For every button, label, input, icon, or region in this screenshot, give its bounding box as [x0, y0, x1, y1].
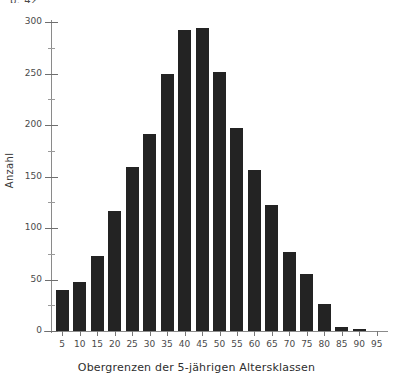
y-tick-value: 250 [2, 69, 42, 78]
bar-20 [108, 211, 121, 332]
x-tick-5 [62, 331, 63, 336]
y-tick-value: 100 [2, 223, 42, 232]
y-tick-value: 50 [2, 275, 42, 284]
x-tick-85 [342, 331, 343, 336]
bar-5 [56, 290, 69, 331]
bar-75 [300, 274, 313, 331]
x-tick-25 [132, 331, 133, 336]
y-tick-0 [45, 331, 58, 332]
x-tick-40 [185, 331, 186, 336]
bar-25 [126, 167, 139, 331]
x-tick-35 [167, 331, 168, 336]
y-tick-label-300: 300 [0, 17, 42, 27]
bar-70 [283, 252, 296, 331]
y-axis-title: Anzahl [4, 141, 15, 201]
x-tick-15 [97, 331, 98, 336]
bar-40 [178, 30, 191, 331]
histogram-chart: p. 42 Anzahl 050100150200250300 51015202… [0, 0, 393, 381]
y-tick-value: 150 [2, 172, 42, 181]
bar-60 [248, 170, 261, 331]
x-tick-70 [289, 331, 290, 336]
x-tick-50 [220, 331, 221, 336]
x-tick-75 [307, 331, 308, 336]
y-tick-label-50: 50 [0, 275, 42, 285]
x-tick-65 [272, 331, 273, 336]
y-tick-value: 0 [2, 326, 42, 335]
x-axis-line [44, 331, 388, 332]
y-tick-label-150: 150 [0, 172, 42, 182]
x-tick-55 [237, 331, 238, 336]
y-tick-label-0: 0 [0, 326, 42, 336]
page-header-stub: p. 42 [10, 0, 38, 3]
y-tick-value: 300 [2, 17, 42, 26]
y-tick-label-200: 200 [0, 120, 42, 130]
bar-55 [230, 128, 243, 331]
bar-35 [161, 74, 174, 332]
y-tick-label-250: 250 [0, 69, 42, 79]
y-tick-label-100: 100 [0, 223, 42, 233]
bar-10 [73, 282, 86, 331]
y-tick-value: 200 [2, 120, 42, 129]
x-tick-45 [202, 331, 203, 336]
x-tick-60 [254, 331, 255, 336]
bar-80 [318, 304, 331, 331]
bar-15 [91, 256, 104, 331]
x-axis-title: Obergrenzen der 5-jährigen Altersklassen [0, 361, 393, 374]
bar-30 [143, 134, 156, 331]
x-tick-10 [80, 331, 81, 336]
bar-65 [265, 205, 278, 331]
plot-area [52, 22, 384, 331]
x-tick-30 [150, 331, 151, 336]
bar-50 [213, 72, 226, 331]
x-tick-20 [115, 331, 116, 336]
x-tick-80 [324, 331, 325, 336]
x-tick-90 [359, 331, 360, 336]
x-tick-label-95: 95 [367, 340, 387, 349]
bar-45 [196, 28, 209, 331]
x-tick-95 [377, 331, 378, 336]
